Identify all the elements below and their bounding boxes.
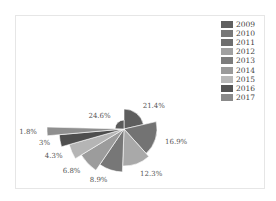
legend-label: 2016 — [236, 84, 255, 93]
legend-item-2015[interactable]: 2015 — [221, 75, 263, 84]
legend-item-2010[interactable]: 2010 — [221, 29, 263, 38]
legend-swatch — [221, 21, 233, 28]
legend-label: 2009 — [236, 20, 255, 29]
legend-swatch — [221, 57, 233, 64]
legend-swatch — [221, 76, 233, 83]
legend-item-2011[interactable]: 2011 — [221, 38, 263, 47]
slice-label-2013: 6.8% — [63, 167, 81, 175]
slice-label-2009: 21.4% — [143, 102, 166, 110]
legend-item-2013[interactable]: 2013 — [221, 56, 263, 65]
legend-label: 2013 — [236, 56, 255, 65]
legend: 2009 2010 2011 2012 2013 2014 2015 2016 … — [221, 20, 263, 102]
legend-item-2014[interactable]: 2014 — [221, 65, 263, 74]
legend-swatch — [221, 67, 233, 74]
legend-label: 2017 — [236, 93, 255, 102]
slice-label-2017: 24.6% — [88, 112, 111, 120]
legend-item-2016[interactable]: 2016 — [221, 84, 263, 93]
legend-swatch — [221, 48, 233, 55]
slice-label-2015: 3% — [39, 139, 50, 147]
legend-swatch — [221, 39, 233, 46]
legend-swatch — [221, 85, 233, 92]
slice-label-2014: 4.3% — [45, 152, 63, 160]
slice-label-2010: 16.9% — [165, 138, 188, 146]
legend-label: 2010 — [236, 29, 255, 38]
legend-item-2017[interactable]: 2017 — [221, 93, 263, 102]
slice-2017[interactable] — [115, 120, 124, 129]
legend-label: 2012 — [236, 47, 255, 56]
slice-label-2011: 12.3% — [140, 170, 163, 178]
legend-swatch — [221, 94, 233, 101]
legend-item-2009[interactable]: 2009 — [221, 20, 263, 29]
legend-item-2012[interactable]: 2012 — [221, 47, 263, 56]
legend-label: 2014 — [236, 66, 255, 75]
legend-label: 2011 — [236, 38, 255, 47]
legend-swatch — [221, 30, 233, 37]
legend-label: 2015 — [236, 75, 255, 84]
slice-label-2016: 1.8% — [19, 128, 37, 136]
slice-label-2012: 8.9% — [90, 176, 108, 184]
